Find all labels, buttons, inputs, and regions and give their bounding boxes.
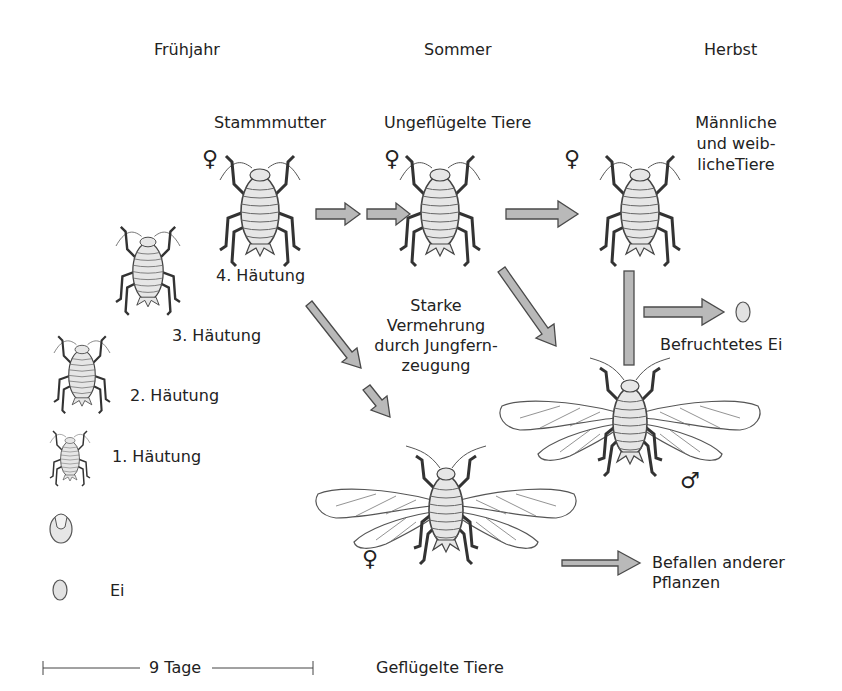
label-infest: Befallen anderer Pflanzen [652,553,785,593]
hatching-egg-icon [50,514,72,543]
arrow-diagonal-3 [498,267,556,346]
wingless-aphid-icon [400,156,480,266]
arrow-diagonal-2 [363,385,390,417]
egg-icon [53,580,67,600]
arrow-right-1 [316,203,360,225]
label-sexual: Männliche und weib- licheTiere [686,112,786,175]
label-fertilized-egg: Befruchtetes Ei [660,334,782,355]
season-summer: Sommer [424,39,492,60]
label-stem-mother: Stammmutter [214,112,326,133]
stem-mother-aphid-icon [220,156,300,266]
female-symbol-wingless: ♀ [384,148,400,169]
label-molt2: 2. Häutung [130,385,219,406]
label-winged: Geflügelte Tiere [376,657,504,678]
nymph-molt1-icon [50,431,90,486]
nymph-molt2-icon [54,336,110,413]
label-molt4: 4. Häutung [216,265,305,286]
arrows [306,201,724,575]
arrow-infest [562,551,640,575]
arrow-to-egg [644,299,724,325]
nymph-molt3-icon [116,227,180,315]
winged-male-aphid-icon [500,358,760,476]
season-autumn: Herbst [704,39,757,60]
female-symbol-sexual: ♀ [564,148,580,169]
arrow-right-2 [367,203,410,225]
label-egg: Ei [110,580,125,601]
fertilized-egg-icon [736,302,750,322]
label-molt3: 3. Häutung [172,325,261,346]
label-wingless: Ungeflügelte Tiere [384,112,531,133]
label-reproduction: Starke Vermehrung durch Jungfern- zeugun… [366,296,506,376]
winged-female-aphid-icon [316,446,576,564]
arrow-right-3 [506,201,578,227]
label-molt1: 1. Häutung [112,446,201,467]
female-symbol-winged: ♀ [362,548,378,569]
vertical-bar [624,271,634,365]
aphid-life-cycle-diagram: Frühjahr Sommer Herbst Stammmutter Ungef… [0,0,842,691]
season-spring: Frühjahr [154,39,220,60]
scale-label: 9 Tage [149,657,201,678]
female-symbol-stem-mother: ♀ [202,148,218,169]
sexual-aphid-icon [600,156,680,266]
male-symbol-winged: ♂ [680,470,700,491]
arrow-diagonal-1 [306,301,361,368]
